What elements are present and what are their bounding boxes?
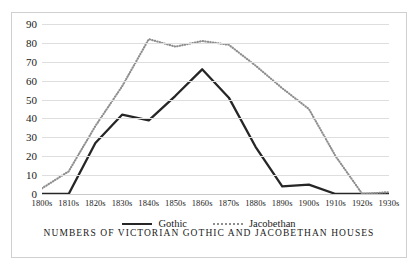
x-axis-tick-label: 1860s <box>192 198 213 208</box>
y-axis-tick-label: 80 <box>26 37 37 49</box>
y-axis-tick-label: 40 <box>26 112 37 124</box>
y-axis-tick-label: 10 <box>26 169 37 181</box>
y-axis-tick-label: 70 <box>26 56 37 68</box>
gridline-10: 10 <box>42 175 389 176</box>
gridline-40: 40 <box>42 118 389 119</box>
x-axis-tick-label: 1930s <box>379 198 400 208</box>
chart-plot-wrapper: 0102030405060708090 1800s1810s1820s1830s… <box>11 12 407 258</box>
x-axis-tick-label: 1840s <box>138 198 159 208</box>
x-axis-tick-label: 1890s <box>272 198 293 208</box>
x-axis-tick-label: 1870s <box>218 198 239 208</box>
gridline-0: 0 <box>42 194 389 195</box>
gridline-20: 20 <box>42 156 389 157</box>
gridline-60: 60 <box>42 81 389 82</box>
legend-line-swatch-gothic <box>122 223 152 225</box>
x-axis-tick-label: 1850s <box>165 198 186 208</box>
y-axis-tick-label: 50 <box>26 94 37 106</box>
legend-line-swatch-jacobethan <box>213 223 243 225</box>
y-axis-tick-label: 20 <box>26 150 37 162</box>
x-axis-tick-label: 1820s <box>85 198 106 208</box>
y-axis-tick-label: 60 <box>26 75 37 87</box>
x-axis-tick-label: 1910s <box>325 198 346 208</box>
gridline-70: 70 <box>42 62 389 63</box>
x-axis-tick-label: 1810s <box>58 198 79 208</box>
x-axis-tick-label: 1900s <box>299 198 320 208</box>
x-axis-tick-label: 1830s <box>112 198 133 208</box>
y-axis-tick-label: 30 <box>26 131 37 143</box>
chart-caption: NUMBERS OF VICTORIAN GOTHIC AND JACOBETH… <box>0 228 418 238</box>
figure-container: 0102030405060708090 1800s1810s1820s1830s… <box>0 0 418 276</box>
plot-area: 0102030405060708090 <box>42 24 389 194</box>
gridline-30: 30 <box>42 137 389 138</box>
gridline-90: 90 <box>42 24 389 25</box>
x-axis-labels: 1800s1810s1820s1830s1840s1850s1860s1870s… <box>42 198 389 214</box>
y-axis-tick-label: 90 <box>26 18 37 30</box>
gridline-80: 80 <box>42 43 389 44</box>
x-axis-tick-label: 1880s <box>245 198 266 208</box>
gridline-50: 50 <box>42 100 389 101</box>
x-axis-tick-label: 1920s <box>352 198 373 208</box>
x-axis-tick-label: 1800s <box>32 198 53 208</box>
series-svg <box>42 24 389 194</box>
